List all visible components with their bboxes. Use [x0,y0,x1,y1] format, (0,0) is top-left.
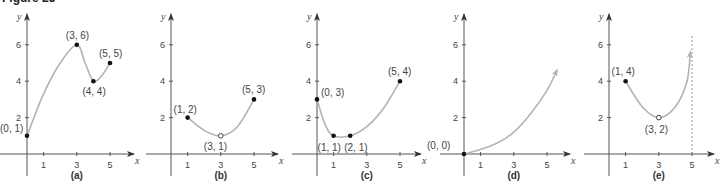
y-tick-label: 6 [453,40,458,50]
closed-point [185,115,190,120]
y-tick-label: 2 [160,113,165,123]
point-label: (5, 3) [242,84,265,95]
x-tick-label: 5 [689,160,694,170]
closed-point [331,134,336,139]
y-tick-label: 4 [160,76,165,86]
x-tick-label: 1 [331,160,336,170]
panel-c: xy135246(0, 3)(1, 1)(2, 1)(5, 4)(c) [292,11,427,181]
y-tick-label: 6 [306,40,311,50]
figure-panels: xy135246(0, 1)(3, 6)(4, 4)(5, 5)(a)xy135… [0,0,720,183]
x-axis-label: x [570,155,576,166]
x-tick-label: 5 [397,160,402,170]
point-label: (4, 4) [82,86,105,97]
x-tick-label: 1 [41,160,46,170]
panel-label: (c) [361,170,373,181]
y-tick-label: 4 [16,76,21,86]
y-axis-label: y [598,11,604,22]
closed-point [398,79,403,84]
y-tick-label: 2 [598,113,603,123]
closed-point [91,79,96,84]
panel-a: xy135246(0, 1)(3, 6)(4, 4)(5, 5)(a) [0,11,140,181]
open-point [657,115,662,120]
closed-point [623,79,628,84]
point-label: (5, 5) [99,48,122,59]
panel-label: (a) [71,170,83,181]
panel-label: (b) [214,170,227,181]
x-tick-label: 3 [218,160,223,170]
graph-curve [188,99,254,135]
closed-point [252,97,257,102]
x-tick-label: 5 [544,160,549,170]
y-tick-label: 2 [16,113,21,123]
y-tick-label: 6 [598,40,603,50]
closed-point [25,134,30,139]
y-axis-label: y [453,11,459,22]
graph-curve [626,52,691,118]
x-axis-label: x [421,155,427,166]
closed-point [348,134,353,139]
x-tick-label: 3 [364,160,369,170]
point-label: (5, 4) [388,66,411,77]
open-point [219,134,224,139]
panel-label: (e) [653,170,665,181]
point-label: (0, 1) [0,123,23,134]
y-tick-label: 4 [598,76,603,86]
y-axis-label: y [306,11,312,22]
panel-b: xy135246(1, 2)(3, 1)(5, 3)(b) [146,11,284,181]
x-tick-label: 5 [251,160,256,170]
y-tick-label: 4 [306,76,311,86]
x-tick-label: 3 [656,160,661,170]
closed-point [108,61,113,66]
point-label: (0, 3) [321,87,344,98]
point-label: (3, 1) [204,141,227,152]
y-tick-label: 6 [160,40,165,50]
point-label: (1, 4) [612,66,635,77]
point-label: (1, 1) [318,142,341,153]
panel-e: xy135246(1, 4)(3, 2)(e) [584,11,720,181]
x-axis-label: x [134,155,140,166]
y-tick-label: 2 [306,113,311,123]
y-tick-label: 4 [453,76,458,86]
point-label: (1, 2) [174,104,197,115]
graph-curve [464,70,557,154]
point-label: (2, 1) [344,142,367,153]
y-axis-label: y [16,11,22,22]
x-tick-label: 1 [478,160,483,170]
point-label: (3, 6) [66,30,89,41]
x-axis-label: x [278,155,284,166]
y-tick-label: 6 [16,40,21,50]
closed-point [75,43,80,48]
x-tick-label: 1 [623,160,628,170]
x-tick-label: 3 [511,160,516,170]
closed-point [462,152,467,157]
closed-point [315,97,320,102]
panel-label: (d) [507,170,520,181]
panel-d: xy135246(0, 0)(d) [427,11,576,181]
y-tick-label: 2 [453,113,458,123]
x-tick-label: 3 [74,160,79,170]
x-tick-label: 1 [185,160,190,170]
x-axis-label: x [714,155,720,166]
y-axis-label: y [160,11,166,22]
x-tick-label: 5 [107,160,112,170]
point-label: (0, 0) [427,140,450,151]
point-label: (3, 2) [645,124,668,135]
